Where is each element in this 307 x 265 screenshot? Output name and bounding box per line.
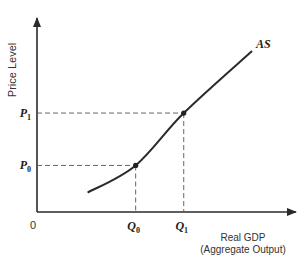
y-tick-label-0: P0 bbox=[20, 158, 31, 174]
x-axis-label-line-2: (Aggregate Output) bbox=[200, 244, 286, 255]
aggregate-supply-chart: Price Level 0 Real GDP (Aggregate Output… bbox=[0, 0, 307, 265]
as-curve-label: AS bbox=[255, 37, 271, 51]
equilibrium-point-1 bbox=[181, 110, 186, 115]
x-axis-label-line-1: Real GDP bbox=[220, 232, 265, 243]
x-tick-label-1: Q1 bbox=[175, 219, 188, 235]
x-tick-label-0: Q0 bbox=[127, 219, 140, 235]
y-axis-label: Price Level bbox=[6, 43, 18, 97]
as-curve bbox=[88, 51, 252, 193]
y-tick-label-1: P1 bbox=[20, 106, 31, 122]
origin-label: 0 bbox=[30, 219, 36, 231]
equilibrium-point-0 bbox=[133, 163, 138, 168]
